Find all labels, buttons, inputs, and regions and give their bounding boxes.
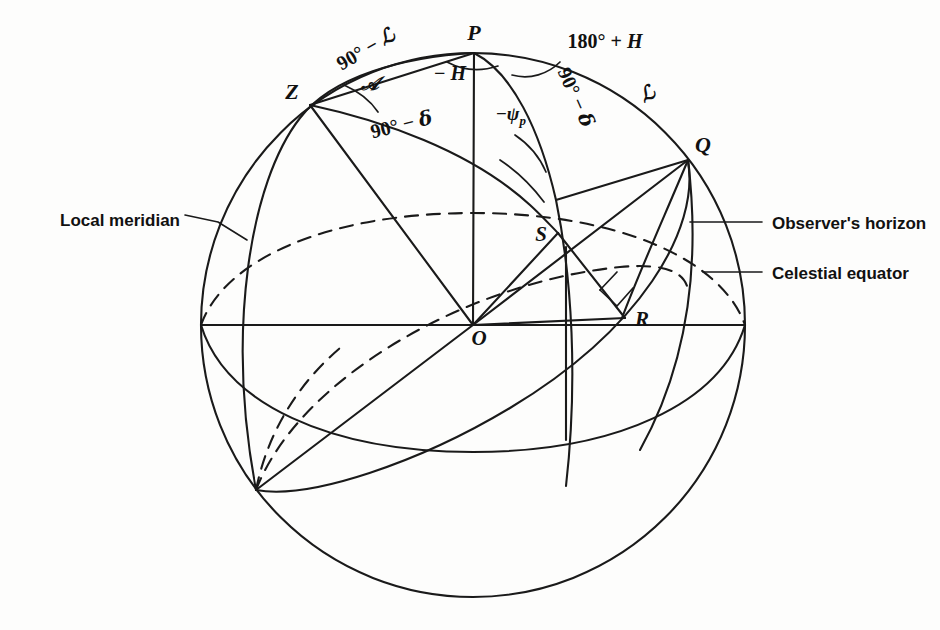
arc-label-hour-angle: − H: [434, 62, 467, 84]
local-meridian-front-arc: [243, 53, 474, 490]
point-label-R: R: [634, 307, 649, 331]
angle-arc-parallactic-outer: [500, 160, 544, 202]
celestial-sphere-svg: P Z Q S R O 90° − ℒ 90° − δ 𝒜 − H 180° +…: [0, 0, 940, 630]
callout-text-local-meridian: Local meridian: [60, 211, 180, 230]
point-label-Q: Q: [695, 132, 711, 157]
spoke-Q-to-hourcircle: [556, 160, 688, 200]
right-angle-marker-tick: [600, 272, 617, 290]
arc-label-codeclination: 90° − δ: [553, 64, 600, 131]
radius-O-to-Z: [310, 105, 473, 325]
point-label-O: O: [471, 326, 486, 350]
polar-axis-line: [473, 53, 474, 325]
callout-text-celestial-equator: Celestial equator: [772, 264, 909, 283]
point-label-S: S: [535, 222, 547, 246]
figure-canvas: P Z Q S R O 90° − ℒ 90° − δ 𝒜 − H 180° +…: [0, 0, 940, 630]
arc-label-hour-angle-supplement: 180° + H: [568, 30, 644, 52]
arc-Q-lower-limb: [640, 160, 693, 450]
angle-arc-parallactic: [515, 135, 546, 172]
point-label-Z: Z: [284, 79, 298, 104]
arc-Q-to-R: [622, 160, 688, 318]
callout-text-observers-horizon: Observer's horizon: [772, 214, 926, 233]
radius-O-to-S: [473, 233, 558, 325]
arc-label-colatitude: 90° − ℒ: [332, 22, 401, 75]
point-label-P: P: [466, 20, 481, 45]
arc-label-longitude: ℒ: [635, 79, 660, 108]
local-meridian-back-arc: [256, 348, 340, 490]
